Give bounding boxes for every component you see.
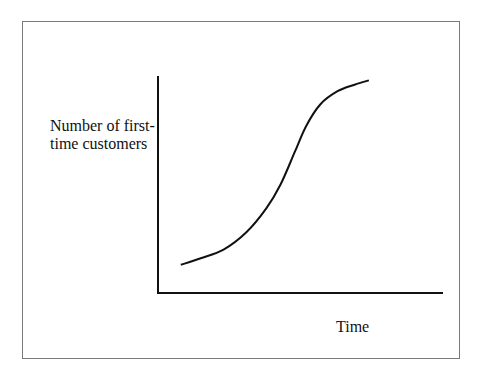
series-line bbox=[181, 80, 369, 264]
x-axis-label: Time bbox=[336, 318, 369, 336]
chart-svg bbox=[0, 0, 483, 378]
y-axis-label: Number of first- time customers bbox=[50, 117, 155, 153]
